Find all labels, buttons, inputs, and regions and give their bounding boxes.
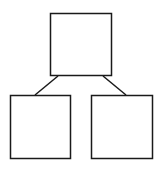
edge-root-to-left-child (35, 76, 58, 95)
edge-root-to-right-child (103, 76, 126, 95)
node-root (51, 14, 112, 76)
node-right-child (92, 96, 153, 159)
node-left-child (11, 96, 71, 159)
tree-diagram (0, 0, 160, 169)
